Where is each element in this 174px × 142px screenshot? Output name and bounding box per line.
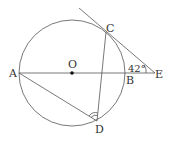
- segment-cd: [97, 32, 106, 121]
- label-d: D: [95, 123, 104, 136]
- geometry-diagram: A O B E C D 42°: [0, 0, 174, 142]
- center-point-o: [70, 71, 74, 75]
- label-a: A: [8, 67, 18, 80]
- label-o: O: [68, 58, 77, 71]
- angle-d-arc-inner: [91, 115, 98, 117]
- label-e: E: [155, 68, 163, 81]
- label-b: B: [126, 74, 134, 87]
- segment-ad: [19, 73, 97, 121]
- label-c: C: [106, 22, 114, 35]
- angle-e-label: 42°: [128, 63, 146, 74]
